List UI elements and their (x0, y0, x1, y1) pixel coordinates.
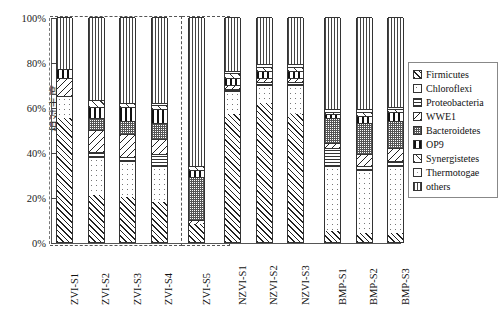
bar-segment-op9 (288, 71, 303, 78)
bar-segment-wwe1 (357, 154, 372, 165)
bar-segment-proteobacteria (152, 154, 167, 165)
stacked-bar[interactable] (151, 18, 168, 243)
legend-item-label: others (426, 181, 450, 192)
bar-segment-thermotogae (257, 64, 272, 66)
bar-segment-synergistetes (189, 166, 204, 171)
bar-segment-firmicutes (257, 103, 272, 243)
bar-segment-wwe1 (388, 148, 403, 162)
bar-segment-chloroflexi (89, 157, 104, 195)
bar-segment-others (120, 17, 135, 103)
stacked-bar[interactable] (188, 18, 205, 243)
bar-segment-proteobacteria (388, 161, 403, 166)
legend-swatch-icon (413, 98, 422, 107)
bar-segment-thermotogae (288, 64, 303, 66)
legend-item[interactable]: Thermotogae (413, 165, 494, 179)
bar-segment-synergistetes (325, 112, 340, 114)
stacked-bar[interactable] (56, 18, 73, 243)
y-axis-tick-label: 0% (0, 238, 46, 249)
bar-segment-proteobacteria (288, 82, 303, 84)
bar-segment-firmicutes (57, 118, 72, 242)
x-axis-label: BMP-S1 (337, 247, 348, 305)
stacked-bar[interactable] (324, 18, 341, 243)
bar-segment-thermotogae (357, 109, 372, 111)
bar-segment-chloroflexi (57, 96, 72, 119)
bar-segment-firmicutes (388, 233, 403, 242)
bar-segment-wwe1 (152, 139, 167, 155)
legend-item-label: Thermotogae (426, 167, 479, 178)
y-axis-tick-label: 40% (0, 148, 46, 159)
bar-segment-synergistetes (257, 67, 272, 72)
bar-segment-firmicutes (189, 224, 204, 242)
bar-segment-proteobacteria (325, 148, 340, 166)
bar-segment-firmicutes (225, 114, 240, 242)
bar-segment-wwe1 (89, 130, 104, 153)
legend-item-label: Synergistetes (426, 153, 479, 164)
bar-segment-thermotogae (225, 71, 240, 73)
bar-segment-firmicutes (325, 231, 340, 242)
bar-segment-thermotogae (152, 103, 167, 105)
bar-segment-wwe1 (225, 85, 240, 90)
stacked-bar[interactable] (287, 18, 304, 243)
legend-swatch-icon (413, 126, 422, 135)
legend-item[interactable]: Firmicutes (413, 67, 494, 81)
bar-segment-chloroflexi (325, 166, 340, 231)
stacked-bar[interactable] (119, 18, 136, 243)
bar-segment-chloroflexi (152, 166, 167, 202)
legend-item-label: Proteobacteria (426, 97, 484, 108)
legend-item[interactable]: Bacteroidetes (413, 123, 494, 137)
stacked-bar[interactable] (88, 18, 105, 243)
bar-segment-chloroflexi (357, 170, 372, 233)
bar-segment-chloroflexi (388, 166, 403, 234)
legend-swatch-icon (413, 168, 422, 177)
bar-segment-synergistetes (152, 105, 167, 110)
bar-segment-others (225, 17, 240, 71)
legend-swatch-icon (413, 182, 422, 191)
legend: FirmicutesChloroflexiProteobacteriaWWE1B… (408, 62, 498, 198)
bar-segment-firmicutes (120, 197, 135, 242)
bar-segment-op9 (257, 71, 272, 78)
stacked-bar[interactable] (224, 18, 241, 243)
bar-segment-synergistetes (388, 109, 403, 111)
legend-item[interactable]: OP9 (413, 137, 494, 151)
bar-segment-wwe1 (325, 143, 340, 148)
bar-segment-proteobacteria (357, 166, 372, 171)
legend-swatch-icon (413, 70, 422, 79)
legend-item[interactable]: WWE1 (413, 109, 494, 123)
bar-segment-chloroflexi (120, 161, 135, 197)
stacked-bar[interactable] (256, 18, 273, 243)
bar-segment-firmicutes (152, 202, 167, 243)
bar-segment-bacteroidetes (89, 118, 104, 129)
bar-segment-chloroflexi (288, 85, 303, 114)
bar-segment-synergistetes (225, 73, 240, 78)
bar-segment-op9 (325, 114, 340, 119)
legend-item[interactable]: Synergistetes (413, 151, 494, 165)
bars-area (52, 18, 400, 243)
y-axis-tick-label: 60% (0, 103, 46, 114)
bar-segment-thermotogae (388, 107, 403, 109)
stacked-bar[interactable] (387, 18, 404, 243)
y-axis-tick-label: 80% (0, 58, 46, 69)
bar-segment-chloroflexi (225, 91, 240, 114)
legend-item-label: Chloroflexi (426, 83, 472, 94)
legend-swatch-icon (413, 140, 422, 149)
bar-segment-thermotogae (325, 109, 340, 111)
bar-segment-bacteroidetes (189, 177, 204, 220)
legend-item-label: Firmicutes (426, 69, 469, 80)
legend-item[interactable]: Chloroflexi (413, 81, 494, 95)
x-axis-label: ZVI-S3 (132, 247, 143, 305)
bar-segment-op9 (357, 116, 372, 123)
stacked-bar[interactable] (356, 18, 373, 243)
legend-item[interactable]: Proteobacteria (413, 95, 494, 109)
legend-swatch-icon (413, 84, 422, 93)
bar-segment-others (288, 17, 303, 64)
legend-swatch-icon (413, 154, 422, 163)
legend-swatch-icon (413, 112, 422, 121)
bar-segment-others (388, 17, 403, 107)
bar-segment-proteobacteria (257, 82, 272, 84)
x-axis-label: NZVI-S2 (268, 247, 279, 305)
bar-segment-proteobacteria (225, 89, 240, 91)
bar-segment-bacteroidetes (388, 121, 403, 148)
legend-item[interactable]: others (413, 179, 494, 193)
bar-segment-op9 (57, 69, 72, 78)
bar-segment-firmicutes (288, 114, 303, 242)
